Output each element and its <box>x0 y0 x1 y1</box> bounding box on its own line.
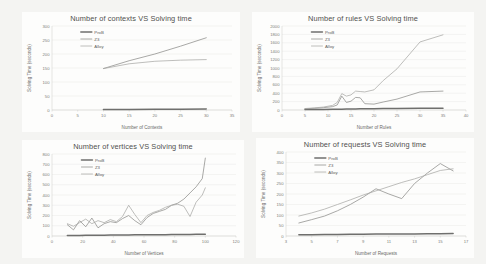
svg-text:15: 15 <box>127 113 132 118</box>
svg-text:800: 800 <box>43 152 51 157</box>
svg-text:ProB: ProB <box>328 156 338 161</box>
svg-text:Number of Requests: Number of Requests <box>355 251 398 256</box>
svg-text:0: 0 <box>47 108 50 113</box>
svg-text:40: 40 <box>464 113 469 118</box>
svg-text:5: 5 <box>77 113 80 118</box>
svg-text:15: 15 <box>438 239 443 244</box>
svg-text:7: 7 <box>336 239 339 244</box>
svg-text:1600: 1600 <box>270 40 280 45</box>
svg-text:35: 35 <box>230 113 235 118</box>
chart-panel-contexts: Number of contexts VS Solving time 05010… <box>22 12 240 132</box>
svg-text:Number of Rules: Number of Rules <box>357 125 392 130</box>
svg-text:0: 0 <box>281 234 284 239</box>
svg-text:400: 400 <box>43 193 51 198</box>
svg-text:11: 11 <box>387 239 392 244</box>
svg-text:150: 150 <box>277 202 285 207</box>
svg-text:50: 50 <box>45 94 50 99</box>
svg-text:100: 100 <box>43 223 51 228</box>
svg-text:1400: 1400 <box>270 49 280 54</box>
svg-text:Z3: Z3 <box>325 37 331 42</box>
svg-text:150: 150 <box>43 66 51 71</box>
svg-text:Z3: Z3 <box>95 165 101 170</box>
svg-text:9: 9 <box>362 239 365 244</box>
plot-area-requests: 050100150200250300350400357911131517ProB… <box>256 138 474 258</box>
svg-text:200: 200 <box>43 52 51 57</box>
svg-text:600: 600 <box>43 172 51 177</box>
plot-area-contexts: 05010015020025030005101520253035ProBZ3Al… <box>22 12 240 132</box>
svg-text:0: 0 <box>47 234 50 239</box>
svg-text:13: 13 <box>412 239 417 244</box>
svg-text:100: 100 <box>43 80 51 85</box>
svg-text:100: 100 <box>202 239 210 244</box>
svg-text:350: 350 <box>277 160 285 165</box>
svg-text:Alloy: Alloy <box>328 170 338 175</box>
svg-text:0: 0 <box>277 108 280 113</box>
svg-text:1000: 1000 <box>270 66 280 71</box>
svg-text:200: 200 <box>43 213 51 218</box>
svg-text:Solving Time (seconds): Solving Time (seconds) <box>27 44 32 92</box>
svg-text:60: 60 <box>142 239 147 244</box>
svg-text:250: 250 <box>43 38 51 43</box>
svg-text:50: 50 <box>279 223 284 228</box>
svg-text:0: 0 <box>51 113 54 118</box>
svg-text:10: 10 <box>101 113 106 118</box>
svg-text:Z3: Z3 <box>94 37 100 42</box>
svg-text:100: 100 <box>277 213 285 218</box>
svg-text:Alloy: Alloy <box>325 44 335 49</box>
svg-text:Z3: Z3 <box>328 163 334 168</box>
svg-text:Solving Time (seconds): Solving Time (seconds) <box>27 171 32 219</box>
svg-text:Solving Time (seconds): Solving Time (seconds) <box>257 44 262 92</box>
svg-text:10: 10 <box>326 113 331 118</box>
svg-text:300: 300 <box>277 171 285 176</box>
svg-text:400: 400 <box>277 150 285 155</box>
svg-text:15: 15 <box>349 113 354 118</box>
svg-text:35: 35 <box>441 113 446 118</box>
svg-text:5: 5 <box>304 113 307 118</box>
svg-text:1800: 1800 <box>270 32 280 37</box>
svg-text:200: 200 <box>273 99 281 104</box>
svg-text:30: 30 <box>418 113 423 118</box>
svg-text:20: 20 <box>372 113 377 118</box>
svg-text:80: 80 <box>172 239 177 244</box>
svg-text:200: 200 <box>277 192 285 197</box>
svg-text:2000: 2000 <box>270 24 280 29</box>
svg-text:0: 0 <box>281 113 284 118</box>
svg-text:40: 40 <box>111 239 116 244</box>
plot-area-rules: 0200400600800100012001400160018002000051… <box>252 12 474 132</box>
svg-text:0: 0 <box>51 239 54 244</box>
chart-panel-vertices: Number of vertices VS Solving time 01002… <box>22 140 244 258</box>
svg-text:ProB: ProB <box>94 30 104 35</box>
svg-text:Solving Time (seconds): Solving Time (seconds) <box>261 170 266 218</box>
svg-text:20: 20 <box>153 113 158 118</box>
svg-text:Alloy: Alloy <box>95 172 105 177</box>
svg-text:5: 5 <box>311 239 314 244</box>
svg-text:600: 600 <box>273 82 281 87</box>
chart-panel-rules: Number of rules VS Solving time 02004006… <box>252 12 474 132</box>
svg-text:400: 400 <box>273 91 281 96</box>
svg-text:30: 30 <box>204 113 209 118</box>
svg-text:Alloy: Alloy <box>94 44 104 49</box>
chart-panel-requests: Number of requests VS Solving time 05010… <box>256 138 474 258</box>
svg-text:Number of Vertices: Number of Vertices <box>124 251 164 256</box>
svg-text:500: 500 <box>43 182 51 187</box>
svg-text:250: 250 <box>277 181 285 186</box>
svg-text:3: 3 <box>285 239 288 244</box>
svg-text:25: 25 <box>395 113 400 118</box>
svg-text:25: 25 <box>178 113 183 118</box>
figure-page: Number of contexts VS Solving time 05010… <box>0 0 486 264</box>
svg-text:800: 800 <box>273 74 281 79</box>
svg-text:ProB: ProB <box>325 30 335 35</box>
svg-text:1200: 1200 <box>270 57 280 62</box>
svg-text:300: 300 <box>43 24 51 29</box>
svg-text:17: 17 <box>464 239 469 244</box>
svg-text:20: 20 <box>80 239 85 244</box>
svg-text:Number of Contexts: Number of Contexts <box>122 125 164 130</box>
svg-text:300: 300 <box>43 203 51 208</box>
plot-area-vertices: 0100200300400500600700800020406080100120… <box>22 140 244 258</box>
svg-text:700: 700 <box>43 162 51 167</box>
svg-text:ProB: ProB <box>95 158 105 163</box>
svg-text:120: 120 <box>233 239 241 244</box>
